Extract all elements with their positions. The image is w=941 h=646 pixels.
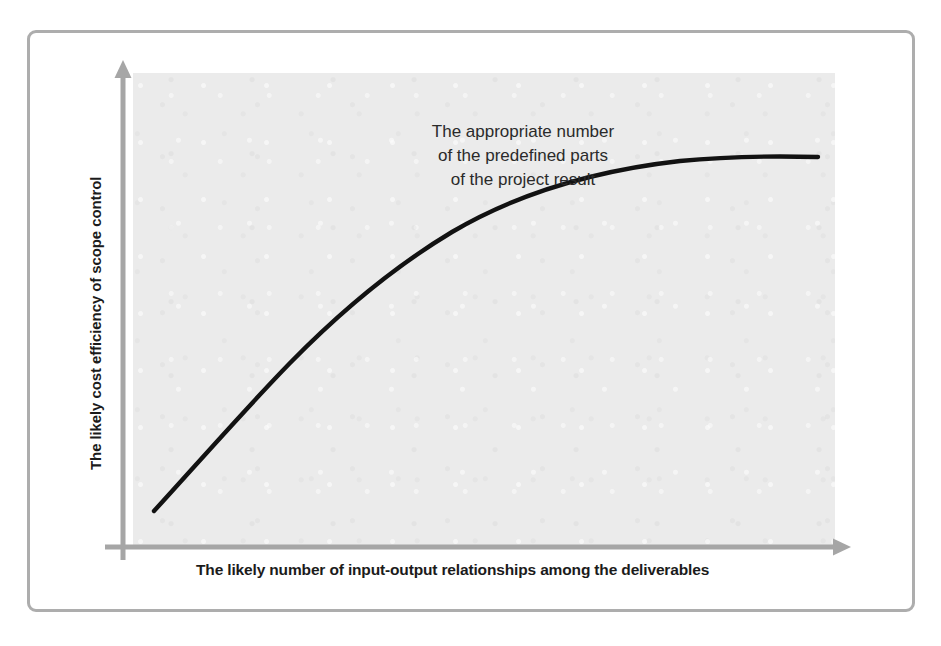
y-axis-title: The likely cost efficiency of scope cont… [88,50,103,470]
curve-annotation: The appropriate number of the predefined… [383,120,663,192]
figure-root: The likely cost efficiency of scope cont… [0,0,941,646]
x-axis-title: The likely number of input-output relati… [196,562,709,578]
curve-annotation-line-3: of the project result [383,168,663,192]
data-curve-layer [0,0,941,646]
curve-annotation-line-2: of the predefined parts [383,144,663,168]
data-curve-diminishing-returns [154,156,818,511]
curve-annotation-line-1: The appropriate number [383,120,663,144]
